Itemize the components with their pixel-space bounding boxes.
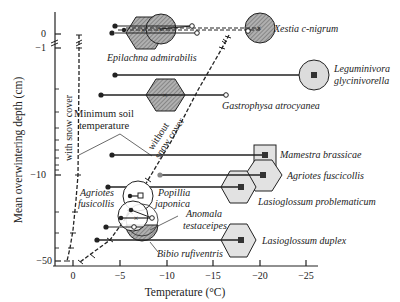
label-lasioglossum-problematicum: Lasioglossum problematicum <box>257 196 376 207</box>
y-tick-50: −50 <box>36 255 52 266</box>
annotation-leader-lines <box>79 134 152 156</box>
svg-text:×: × <box>158 25 163 34</box>
label-leguminivora-2: glycinivorella <box>334 75 389 86</box>
annotation-min-soil-2: temperature <box>79 120 129 131</box>
label-gastrophysa: Gastrophysa atrocyanea <box>222 100 320 111</box>
y-tick-1: −1 <box>35 42 46 53</box>
x-tick-20: −20 <box>252 270 268 281</box>
svg-text:×: × <box>141 26 146 35</box>
x-axis-title: Temperature (°C) <box>145 286 226 299</box>
y-tick-10: −10 <box>30 169 46 180</box>
annotation-min-soil-1: Minimum soil <box>74 108 134 119</box>
label-agriotes-fusicollis-1: Agriotes <box>79 187 114 198</box>
svg-text:×: × <box>134 214 139 223</box>
x-tick-25: −25 <box>298 270 314 281</box>
svg-text:×: × <box>163 91 168 100</box>
x-tick-0: 0 <box>71 270 76 281</box>
x-tick-5: −5 <box>115 270 126 281</box>
label-xestia: Xestia c-nigrum <box>273 23 338 34</box>
marker-dot <box>122 28 126 32</box>
marker-open <box>190 24 195 29</box>
label-agriotes-fusicollis-2: fusicollis <box>78 198 114 209</box>
marker-dot <box>109 30 114 35</box>
label-mamestra: Mamestra brassicae <box>279 149 362 160</box>
label-popillia-1: Popillia <box>157 187 190 198</box>
label-popillia-2: japonica <box>153 198 190 209</box>
label-anomala-1: Anomala <box>185 208 222 219</box>
chart: 0 −1 −10 −50 0 −5 −10 −15 −20 −25 Temper… <box>0 0 400 302</box>
x-tick-15: −15 <box>205 270 221 281</box>
label-epilachna: Epilachna admirabilis <box>106 52 197 63</box>
label-anomala-2: testaceipes <box>183 220 227 231</box>
species-epilachna <box>126 14 176 49</box>
svg-text:×: × <box>256 23 261 33</box>
label-agriotes-fuscicollis: Agriotes fuscicollis <box>286 170 364 181</box>
label-with-snow-cover: with snow cover <box>63 94 74 161</box>
label-bibio: Bibio rufiventris <box>157 248 223 259</box>
marker-dot <box>112 23 117 28</box>
label-leguminivora-1: Leguminivora <box>333 63 390 74</box>
y-tick-0: 0 <box>41 28 46 39</box>
x-tick-labels: 0 −5 −10 −15 −20 −25 <box>71 270 314 281</box>
y-axis-title: Mean overwintering depth (cm) <box>12 77 25 224</box>
x-tick-10: −10 <box>159 270 175 281</box>
marker-open <box>246 29 251 34</box>
marker-open <box>195 31 200 36</box>
label-lasioglossum-duplex: Lasioglossum duplex <box>261 235 347 246</box>
y-tick-labels: 0 −1 −10 −50 <box>30 28 52 266</box>
